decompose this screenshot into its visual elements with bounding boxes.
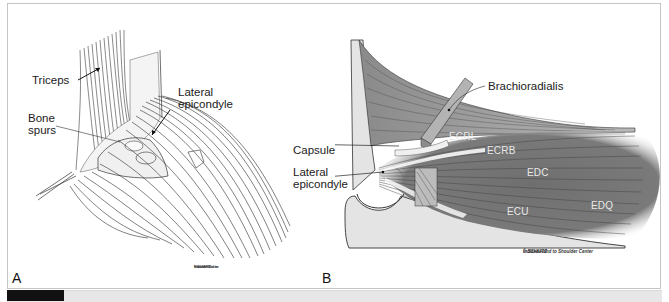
footer-black-block	[7, 290, 64, 301]
credit-a-line3: Shoulder Center	[194, 266, 219, 270]
panel-a: Triceps Bone spurs Lateral epicondyle © …	[0, 0, 335, 290]
label-triceps: Triceps	[32, 74, 69, 87]
panel-b: Brachioradialis Capsule Lateral epicondy…	[335, 0, 669, 290]
panel-letter-a: A	[12, 270, 21, 286]
label-edq: EDQ	[591, 200, 613, 211]
label-lateral-epicondyle-a-line2: epicondyle	[178, 98, 233, 111]
label-ecrb: ECRB	[487, 145, 516, 156]
panel-a-illustration	[0, 0, 335, 290]
label-ecu: ECU	[507, 206, 529, 217]
credit-b-line2: Indiana Hand to Shoulder Center	[523, 249, 593, 254]
footer-bar	[7, 290, 662, 302]
label-bone-spurs-line2: spurs	[28, 124, 56, 137]
panel-letter-b: B	[322, 270, 331, 286]
label-edc: EDC	[527, 167, 549, 178]
label-brachioradialis: Brachioradialis	[488, 80, 563, 93]
label-ecrl: ECRL	[449, 131, 476, 142]
label-capsule: Capsule	[293, 144, 335, 157]
label-lateral-epicondyle-b-line2: epicondyle	[293, 178, 348, 191]
